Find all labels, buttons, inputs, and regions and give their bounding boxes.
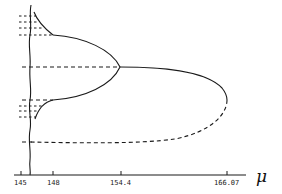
upper-guide-lines — [19, 16, 53, 35]
large-loop-unstable-branch — [30, 100, 227, 143]
lower-loop-cascade-curve — [35, 100, 53, 119]
large-loop-stable-branch — [120, 67, 227, 100]
tick-label-154-4: 154.4 — [110, 179, 131, 187]
lower-guide-lines — [19, 100, 53, 117]
tick-label-148: 148 — [47, 179, 60, 187]
tick-label-166-07: 166.07 — [214, 179, 239, 187]
upper-loop-cascade-curve — [34, 12, 53, 35]
bifurcation-figure: 145 148 154.4 166.07 μ — [0, 0, 282, 194]
x-axis-ticks — [21, 171, 227, 175]
x-axis-label-mu: μ — [256, 166, 267, 186]
vertical-band-line — [29, 5, 31, 175]
tick-label-145: 145 — [14, 179, 27, 187]
